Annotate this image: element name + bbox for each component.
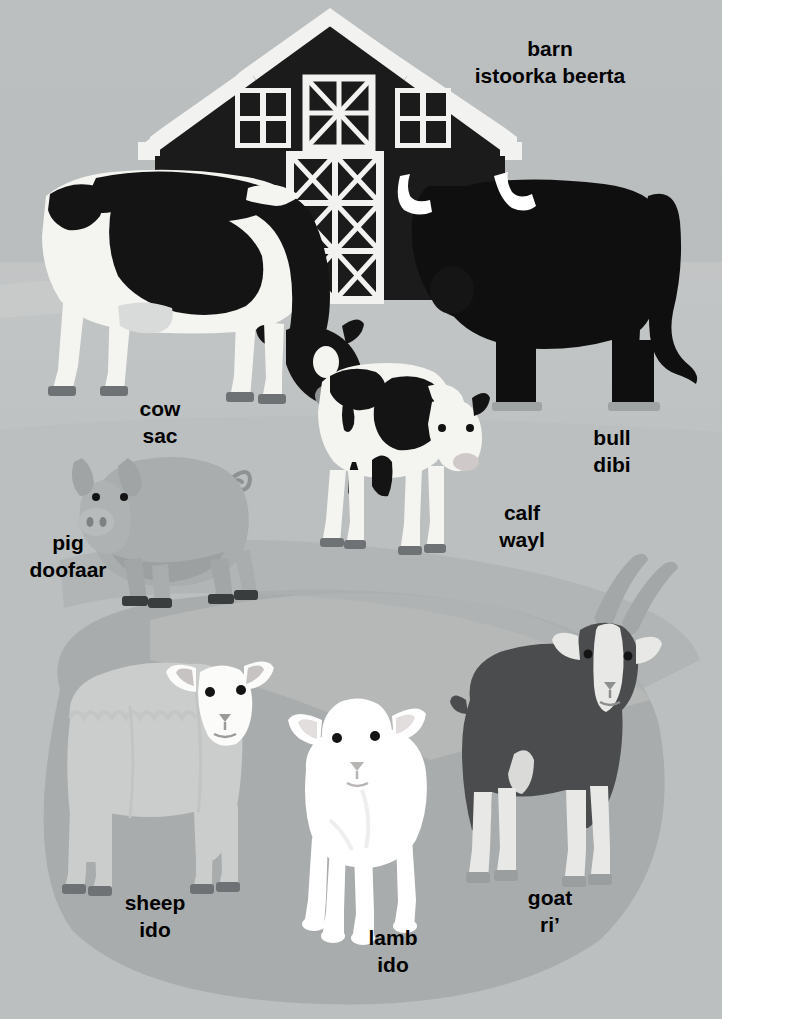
goat-eye-right xyxy=(624,652,633,661)
calf-hoof-1 xyxy=(320,538,344,547)
label-pig-en: pig xyxy=(4,530,132,557)
bull-muzzle xyxy=(430,266,474,314)
label-cow-so: sac xyxy=(96,423,224,450)
label-barn-so: istoorka beerta xyxy=(420,63,680,90)
label-sheep-en: sheep xyxy=(90,890,220,917)
goat-hoof-2 xyxy=(588,874,612,885)
barn-window-right xyxy=(395,88,451,148)
bull-hoof-3 xyxy=(608,402,638,411)
label-goat-so: ri’ xyxy=(490,912,610,939)
label-sheep: sheep ido xyxy=(90,890,220,943)
calf-muzzle xyxy=(453,453,479,471)
bull-leg-rear2 xyxy=(636,340,654,408)
label-bull-so: dibi xyxy=(548,452,676,479)
cow-hoof-4 xyxy=(258,394,286,404)
barn-eave-right xyxy=(500,142,522,156)
cow-hoof-1 xyxy=(48,386,76,396)
label-cow: cow sac xyxy=(96,396,224,449)
cow-hoof-3 xyxy=(226,392,254,402)
label-bull-en: bull xyxy=(548,425,676,452)
label-barn-en: barn xyxy=(420,36,680,63)
lamb-eye-right xyxy=(370,731,380,741)
calf-hoof-3 xyxy=(398,546,422,555)
label-pig: pig doofaar xyxy=(4,530,132,583)
label-goat: goat ri’ xyxy=(490,885,610,938)
label-bull: bull dibi xyxy=(548,425,676,478)
barn-window-left xyxy=(235,88,291,148)
calf-hoof-4 xyxy=(424,544,446,553)
goat-eye-left xyxy=(584,650,593,659)
goat-hoof-4 xyxy=(494,870,518,881)
sheep-eye-left xyxy=(205,687,215,697)
pig-hoof-2 xyxy=(148,598,172,608)
barn-hayloft-door xyxy=(306,78,372,148)
label-lamb-so: ido xyxy=(330,952,456,979)
bull-hoof-4 xyxy=(634,402,660,411)
label-cow-en: cow xyxy=(96,396,224,423)
bull-leg-rear xyxy=(612,336,636,408)
calf-patch-leg xyxy=(372,455,393,496)
cow-hoof-2 xyxy=(100,386,128,396)
barn-eave-left xyxy=(138,142,160,156)
label-lamb-en: lamb xyxy=(330,925,456,952)
bull-leg-front xyxy=(496,340,518,408)
label-barn: barn istoorka beerta xyxy=(420,36,680,89)
label-calf-en: calf xyxy=(462,500,582,527)
label-pig-so: doofaar xyxy=(4,557,132,584)
pig-hoof-4 xyxy=(234,590,258,600)
calf-eye-left xyxy=(438,424,446,432)
picture-dictionary-page: barn istoorka beerta cow sac bull dibi c… xyxy=(0,0,807,1019)
cow-udder xyxy=(118,302,173,333)
pig-eye-left xyxy=(92,493,100,501)
calf-eye-right xyxy=(466,424,474,432)
calf-hoof-2 xyxy=(344,540,366,549)
goat-hoof-3 xyxy=(466,872,490,883)
pig-eye-right xyxy=(120,493,128,501)
lamb-hoof-4 xyxy=(302,917,326,931)
label-lamb: lamb ido xyxy=(330,925,456,978)
pig-nostril-left xyxy=(87,517,94,527)
farm-scene-illustration: barn istoorka beerta cow sac bull dibi c… xyxy=(0,0,722,1019)
label-goat-en: goat xyxy=(490,885,610,912)
bull-leg-front2 xyxy=(518,346,536,408)
sheep-eye-right xyxy=(236,685,246,695)
label-calf-so: wayl xyxy=(462,527,582,554)
pig-hoof-1 xyxy=(122,596,148,606)
sheep-hoof-3 xyxy=(62,884,86,894)
lamb-eye-left xyxy=(332,733,342,743)
lamb xyxy=(288,698,427,945)
page-margin: Animals Xayawaan 9 xyxy=(722,0,807,1019)
pig-nostril-right xyxy=(100,517,107,527)
label-calf: calf wayl xyxy=(462,500,582,553)
pig-hoof-3 xyxy=(208,594,234,604)
label-sheep-so: ido xyxy=(90,917,220,944)
bull-hoof-2 xyxy=(516,402,542,411)
